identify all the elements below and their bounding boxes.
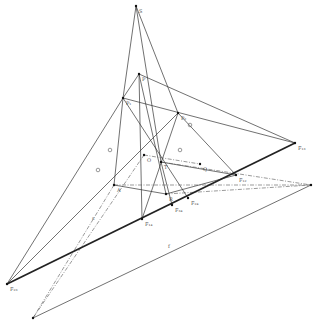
point-P2: [177, 112, 179, 114]
construction-lines: [7, 6, 311, 318]
point-A: [113, 184, 115, 186]
point-label-A: A: [116, 187, 121, 193]
point-Q: [199, 163, 201, 165]
point-F34: [171, 204, 173, 206]
point-S: [135, 5, 137, 7]
point-Vr: [310, 184, 312, 186]
line-P-F14: [139, 74, 142, 219]
tick-mark-icon: [96, 168, 100, 172]
line-P1-A: [114, 98, 123, 185]
line-A-R: [114, 185, 166, 194]
point-F24: [187, 197, 189, 199]
dashed-line-R-Vr: [166, 185, 311, 194]
labels: SPP₁P₂OTQARF₁₃F₁₂F₂₄F₃₄F₁₄F₂₃sf: [10, 8, 305, 292]
dash-dot-lines: [33, 155, 311, 318]
line-P-P1: [123, 74, 139, 98]
dashed-line-O-Q: [144, 155, 200, 164]
point-label-S: S: [139, 8, 143, 14]
point-P1: [122, 97, 124, 99]
line-S-T: [136, 6, 161, 162]
tick-mark-icon: [108, 148, 112, 152]
point-label-P2: P₂: [181, 115, 186, 121]
line-S-P2: [136, 6, 178, 113]
point-label-O: O: [147, 157, 151, 163]
dashed-line-O-Vb: [33, 155, 144, 318]
point-label-F13: F₁₃: [298, 145, 305, 151]
point-F12: [235, 174, 237, 176]
point-F23: [6, 283, 8, 285]
point-Vb: [32, 317, 34, 319]
dashed-line-T-Vr: [161, 162, 311, 185]
line-S-P1: [123, 6, 136, 98]
line-P-R: [139, 74, 166, 194]
point-R: [165, 193, 167, 195]
line-P2-F23: [7, 113, 178, 284]
line-label-f: f: [168, 243, 171, 249]
point-label-F34: F₃₄: [175, 207, 182, 213]
point-label-T: T: [164, 164, 168, 170]
point-label-F12: F₁₂: [239, 177, 246, 183]
point-label-F24: F₂₄: [191, 200, 198, 206]
point-label-Q: Q: [203, 166, 207, 172]
point-label-R: R: [169, 196, 173, 202]
point-label-F14: F₁₄: [145, 221, 152, 227]
line-label-s: s: [92, 215, 95, 221]
tick-mark-icon: [178, 148, 182, 152]
point-label-F23: F₂₃: [10, 286, 17, 292]
point-T: [160, 161, 162, 163]
point-label-P1: P₁: [126, 100, 131, 106]
point-O: [143, 154, 145, 156]
geometry-diagram: SPP₁P₂OTQARF₁₃F₁₂F₂₄F₃₄F₁₄F₂₃sf: [0, 0, 313, 320]
point-F14: [141, 218, 143, 220]
point-F13: [294, 142, 296, 144]
point-P: [138, 73, 140, 75]
